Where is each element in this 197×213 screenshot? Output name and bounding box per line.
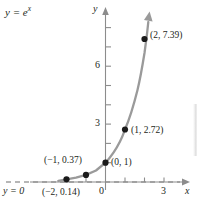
curve-arrow-icon bbox=[144, 12, 153, 22]
y-axis-ticks bbox=[106, 28, 112, 163]
point-label-one: (1, 2.72) bbox=[131, 126, 163, 136]
y-axis-label: y bbox=[93, 4, 97, 14]
origin-label: 0 bbox=[99, 186, 104, 196]
data-point bbox=[63, 176, 69, 182]
equation-lhs: y = e bbox=[5, 6, 28, 18]
equation-label: y = ex bbox=[5, 5, 31, 18]
data-point bbox=[122, 126, 128, 132]
asymptote-label: y = 0 bbox=[3, 186, 24, 196]
data-point bbox=[141, 36, 147, 42]
x-axis-ticks bbox=[67, 178, 165, 183]
data-point bbox=[83, 172, 89, 178]
equation-exponent: x bbox=[28, 4, 31, 13]
y-axis-arrow-icon bbox=[102, 7, 109, 15]
point-label-neg2: (−2, 0.14) bbox=[42, 188, 80, 198]
point-label-two: (2, 7.39) bbox=[150, 31, 182, 41]
y-tick-label-6: 6 bbox=[95, 60, 100, 70]
page-edge-artifact bbox=[193, 104, 197, 156]
x-axis-label: x bbox=[185, 186, 189, 196]
point-label-zero: (0, 1) bbox=[111, 158, 132, 168]
y-tick-label-3: 3 bbox=[95, 118, 100, 128]
point-label-neg1: (−1, 0.37) bbox=[44, 156, 82, 166]
x-tick-label-3: 3 bbox=[161, 186, 166, 196]
exponential-function-graph: y = ex y x 3 6 0 3 y = 0 (−2, 0.14) (−1,… bbox=[0, 0, 197, 213]
data-point bbox=[102, 160, 108, 166]
